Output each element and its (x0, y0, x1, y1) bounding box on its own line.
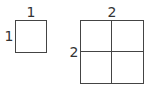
large-square-top-label: 2 (108, 5, 117, 19)
small-square-top-label: 1 (27, 5, 36, 19)
vertical-divider (111, 20, 112, 84)
large-square-side-label: 2 (70, 45, 79, 59)
small-square (15, 20, 47, 53)
horizontal-divider (80, 51, 144, 52)
large-square (80, 20, 144, 84)
small-square-side-label: 1 (5, 29, 14, 43)
